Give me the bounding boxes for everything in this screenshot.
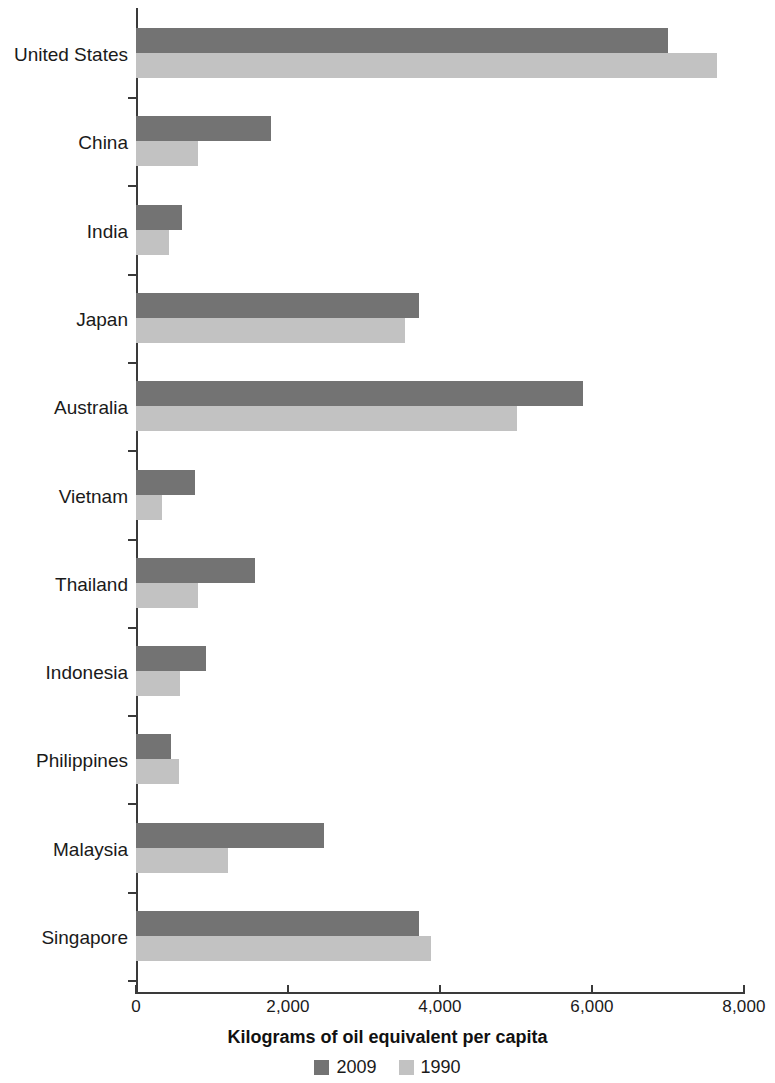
- bar-2009-singapore: [136, 911, 419, 936]
- category-label-united-states: United States: [0, 45, 128, 64]
- category-label-malaysia: Malaysia: [0, 840, 128, 859]
- bar-2009-philippines: [136, 734, 171, 759]
- x-axis-tick-label: 0: [131, 997, 141, 1017]
- bar-1990-china: [136, 141, 198, 166]
- bar-group: [136, 911, 744, 961]
- category-label-thailand: Thailand: [0, 575, 128, 594]
- chart-legend: 20091990: [0, 1058, 775, 1076]
- bar-1990-australia: [136, 406, 517, 431]
- category-label-japan: Japan: [0, 310, 128, 329]
- bar-2009-india: [136, 205, 182, 230]
- category-label-india: India: [0, 222, 128, 241]
- bar-group: [136, 381, 744, 431]
- legend-item-2009[interactable]: 2009: [314, 1058, 376, 1076]
- bar-group: [136, 293, 744, 343]
- bar-group: [136, 116, 744, 166]
- bar-2009-japan: [136, 293, 419, 318]
- bar-2009-thailand: [136, 558, 255, 583]
- bar-group: [136, 734, 744, 784]
- bar-group: [136, 205, 744, 255]
- bar-1990-thailand: [136, 583, 198, 608]
- category-label-indonesia: Indonesia: [0, 663, 128, 682]
- x-axis-tick-label: 8,000: [722, 997, 766, 1017]
- bar-1990-united-states: [136, 53, 717, 78]
- bar-1990-india: [136, 230, 169, 255]
- bar-group: [136, 470, 744, 520]
- x-axis-tick-label: 4,000: [418, 997, 462, 1017]
- bar-1990-japan: [136, 318, 405, 343]
- bar-1990-malaysia: [136, 848, 228, 873]
- bar-1990-indonesia: [136, 671, 180, 696]
- legend-label: 2009: [336, 1058, 376, 1076]
- bar-2009-china: [136, 116, 271, 141]
- bar-group: [136, 646, 744, 696]
- bar-2009-australia: [136, 381, 583, 406]
- category-label-vietnam: Vietnam: [0, 487, 128, 506]
- bar-1990-philippines: [136, 759, 179, 784]
- category-label-australia: Australia: [0, 398, 128, 417]
- legend-swatch-icon: [314, 1060, 329, 1075]
- bar-group: [136, 28, 744, 78]
- bar-2009-indonesia: [136, 646, 206, 671]
- bar-2009-united-states: [136, 28, 668, 53]
- horizontal-bar-chart: 02,0004,0006,0008,000 United StatesChina…: [0, 0, 775, 1083]
- plot-area: [136, 8, 744, 993]
- x-axis-tick-label: 2,000: [266, 997, 310, 1017]
- bar-2009-vietnam: [136, 470, 195, 495]
- legend-swatch-icon: [399, 1060, 414, 1075]
- bar-1990-singapore: [136, 936, 431, 961]
- x-axis-tick-label: 6,000: [570, 997, 614, 1017]
- bar-group: [136, 558, 744, 608]
- legend-label: 1990: [421, 1058, 461, 1076]
- bar-1990-vietnam: [136, 495, 162, 520]
- x-axis-title: Kilograms of oil equivalent per capita: [0, 1027, 775, 1048]
- legend-item-1990[interactable]: 1990: [399, 1058, 461, 1076]
- category-label-china: China: [0, 133, 128, 152]
- bar-2009-malaysia: [136, 823, 324, 848]
- category-label-philippines: Philippines: [0, 751, 128, 770]
- category-label-singapore: Singapore: [0, 928, 128, 947]
- bar-group: [136, 823, 744, 873]
